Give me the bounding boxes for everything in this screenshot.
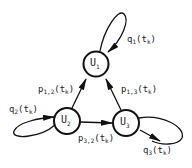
edge-q2-self-loop bbox=[14, 117, 55, 137]
edge-p32 bbox=[80, 122, 112, 123]
edge-q1-self-loop bbox=[100, 13, 126, 52]
edge-p13 bbox=[106, 79, 121, 110]
label-p32: p3,2(tk) bbox=[78, 133, 114, 144]
label-q2: q2(tk) bbox=[9, 104, 38, 115]
label-p12: p1,2(tk) bbox=[38, 84, 74, 95]
markov-diagram: U1 U2 U3 q1(tk) q2(tk) q3(tk) p1,2(tk) p… bbox=[0, 0, 192, 168]
label-q1: q1(tk) bbox=[127, 34, 156, 45]
node-u2: U2 bbox=[54, 108, 80, 134]
node-u1: U1 bbox=[84, 52, 109, 77]
node-u3: U3 bbox=[113, 110, 139, 136]
label-p13: p1,3(tk) bbox=[121, 84, 157, 95]
edge-q3-self-loop bbox=[139, 117, 182, 144]
label-q3: q3(tk) bbox=[143, 145, 172, 156]
